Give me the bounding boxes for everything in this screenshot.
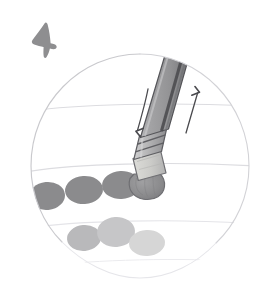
illustration-canvas: Pencil eraser dabbing technique Hand-dra…: [0, 0, 275, 289]
pencil-eraser-illustration: [0, 0, 275, 289]
